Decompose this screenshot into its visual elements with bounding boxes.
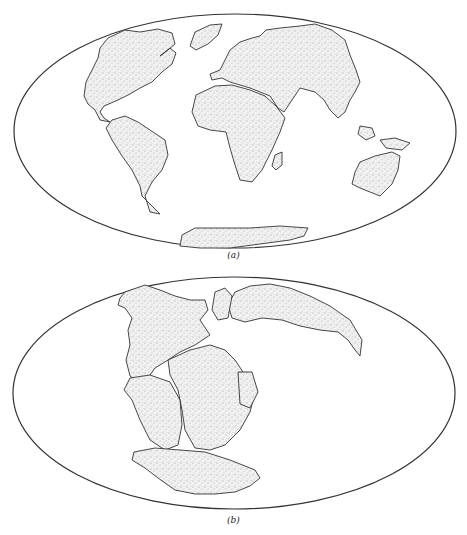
panel-b-pangaea-map: (b) — [0, 268, 467, 535]
antarctica-australia-pangaea-shape — [132, 448, 260, 494]
india-pangaea-shape — [238, 372, 258, 408]
panel-a-present-day-map: (a) — [0, 0, 467, 260]
indonesia-islands-shape — [358, 126, 410, 150]
eurasia-pangaea-shape — [228, 284, 362, 356]
south-america-pangaea-shape — [124, 375, 182, 450]
north-america-shape — [84, 29, 176, 122]
south-america-shape — [106, 116, 168, 214]
australia-shape — [352, 152, 400, 196]
panel-b-label: (b) — [0, 515, 467, 525]
world-map-present — [0, 0, 467, 260]
panel-a-label: (a) — [0, 250, 467, 260]
scandinavia-shape — [212, 288, 232, 320]
greenland-shape — [190, 24, 222, 50]
africa-shape — [192, 85, 285, 182]
world-map-pangaea — [0, 268, 467, 535]
madagascar-shape — [272, 152, 282, 170]
